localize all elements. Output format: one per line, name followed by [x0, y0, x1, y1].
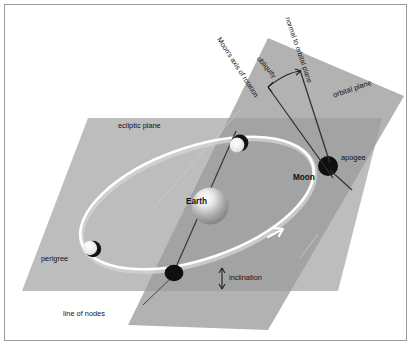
label-inclination: inclination	[229, 274, 262, 281]
descending-node-marker	[165, 265, 184, 281]
label-ecliptic-plane: ecliptic plane	[118, 122, 161, 129]
label-earth: Earth	[186, 198, 207, 206]
label-apogee: apogee	[341, 154, 366, 161]
diagram-canvas	[0, 0, 413, 347]
label-moon: Moon	[293, 174, 315, 182]
diagram-figure: ecliptic plane orbital plane Moon's axis…	[0, 0, 413, 347]
moon-body	[318, 156, 338, 176]
label-perigee: perigree	[41, 255, 68, 262]
label-line-of-nodes: line of nodes	[63, 310, 105, 317]
